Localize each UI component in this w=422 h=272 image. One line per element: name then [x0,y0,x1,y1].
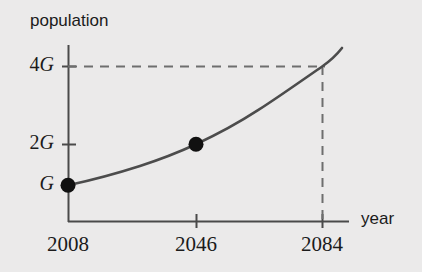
y-tick-label-G: G [10,172,54,195]
x-tick-label-2084: 2084 [301,232,343,257]
data-point-2008-G [61,178,76,193]
x-axis-title: year [361,209,394,229]
chart-figure: population year 4G 2G G 2008 2046 2084 [0,0,422,272]
y-tick-symbol-2G: G [40,131,54,153]
y-tick-coefficient-2: 2 [30,131,40,153]
y-axis-title: population [30,11,108,31]
population-curve [68,48,342,185]
y-tick-label-4G: 4G [10,53,54,76]
x-tick-label-2008: 2008 [47,232,89,257]
x-tick-label-2046: 2046 [175,232,217,257]
y-tick-symbol-4G: G [40,53,54,75]
y-tick-symbol-G: G [40,172,54,194]
y-tick-coefficient-4: 4 [30,53,40,75]
data-point-2046-2G [189,137,204,152]
y-tick-label-2G: 2G [10,131,54,154]
